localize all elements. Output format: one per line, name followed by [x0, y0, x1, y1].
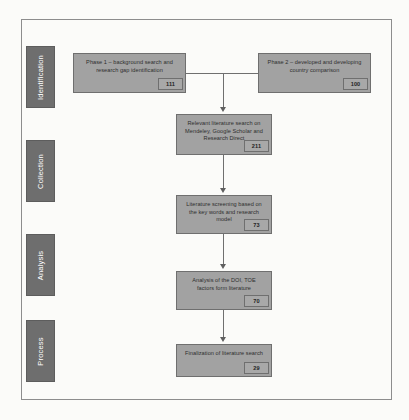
flow-box-screening-count: 73 — [244, 219, 269, 231]
flow-box-phase1: Phase 1 – background search and research… — [73, 53, 186, 93]
flow-box-analysis-text: Analysis of the DOI, TOE factors form li… — [183, 277, 265, 292]
flow-box-search-count: 211 — [244, 140, 269, 152]
connector-analysis-to-finalization — [223, 310, 224, 337]
flow-box-search: Relevant literature search on Mendeley, … — [176, 114, 272, 155]
connector-screening-to-analysis — [223, 234, 224, 264]
flow-box-screening: Literature screening based on the key wo… — [176, 195, 272, 234]
flow-box-finalization-text: Finalization of literature search — [183, 350, 265, 358]
stage-label-identification-text: Identification — [36, 55, 45, 100]
flow-box-analysis-count: 70 — [244, 295, 269, 307]
connector-to-search — [223, 73, 224, 108]
stage-label-analysis-text: Analysis — [36, 250, 45, 280]
flow-box-phase2: Phase 2 – developed and developing count… — [258, 53, 371, 93]
flow-box-phase1-text: Phase 1 – background search and research… — [80, 59, 179, 74]
flow-box-phase2-text: Phase 2 – developed and developing count… — [265, 59, 364, 74]
arrow-head-to-analysis — [220, 264, 226, 269]
arrow-head-to-screening — [220, 188, 226, 193]
flow-box-analysis: Analysis of the DOI, TOE factors form li… — [176, 271, 272, 310]
flow-box-phase2-count: 100 — [343, 78, 368, 90]
stage-label-identification: Identification — [26, 46, 55, 108]
arrow-head-to-search — [220, 107, 226, 112]
connector-phase1-phase2 — [186, 73, 258, 74]
stage-label-collection-text: Collection — [36, 154, 45, 189]
arrow-head-to-finalization — [220, 337, 226, 342]
stage-label-process: Process — [26, 320, 55, 382]
connector-search-to-screening — [223, 155, 224, 188]
stage-label-collection: Collection — [26, 140, 55, 202]
stage-label-process-text: Process — [36, 337, 45, 366]
flow-box-finalization-count: 29 — [244, 362, 269, 374]
flow-box-finalization: Finalization of literature search 29 — [176, 344, 272, 377]
flow-box-phase1-count: 111 — [158, 78, 183, 90]
stage-label-analysis: Analysis — [26, 234, 55, 296]
